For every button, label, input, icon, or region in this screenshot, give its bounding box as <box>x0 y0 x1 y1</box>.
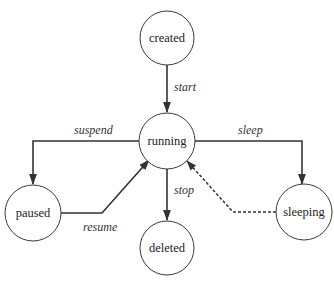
node-sleeping: sleeping <box>276 184 332 240</box>
node-label-created: created <box>149 31 186 45</box>
node-paused: paused <box>5 185 61 241</box>
arrow-wake-dashed <box>187 161 276 212</box>
node-label-running: running <box>148 134 188 148</box>
node-label-paused: paused <box>16 206 51 220</box>
edge-sleep: sleep <box>195 123 302 184</box>
edge-label-resume: resume <box>83 220 118 234</box>
node-running: running <box>139 113 195 169</box>
edge-stop: stop <box>167 169 194 220</box>
edge-start: start <box>167 65 197 112</box>
node-created: created <box>140 11 194 65</box>
edge-label-start: start <box>174 80 197 94</box>
edge-suspend: suspend <box>33 123 139 184</box>
arrow-sleep <box>195 141 302 184</box>
edge-label-stop: stop <box>174 183 194 197</box>
edge-resume: resume <box>61 160 149 234</box>
state-diagram: start suspend resume stop sleep created … <box>0 0 334 282</box>
arrow-suspend <box>33 141 139 184</box>
arrow-resume <box>61 160 149 213</box>
node-label-deleted: deleted <box>149 241 186 255</box>
node-label-sleeping: sleeping <box>283 205 325 219</box>
edge-wake <box>187 161 276 212</box>
edge-label-suspend: suspend <box>74 123 114 137</box>
node-deleted: deleted <box>140 221 194 275</box>
edge-label-sleep: sleep <box>238 123 263 137</box>
